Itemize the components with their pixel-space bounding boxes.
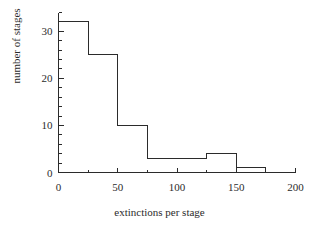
x-tick-label-100: 100	[169, 182, 186, 193]
x-tick-label-200: 200	[287, 182, 304, 193]
histogram-bars-group	[59, 22, 296, 173]
y-tick-label-0: 0	[29, 167, 53, 178]
histogram-outline	[59, 22, 296, 173]
x-tick-label-50: 50	[112, 182, 123, 193]
y-axis-title: number of stages	[10, 0, 22, 106]
axis-spines	[59, 13, 296, 173]
tick-marks-group	[59, 13, 296, 173]
x-axis-title: extinctions per stage	[0, 206, 319, 218]
histogram-figure: 050100150200 0102030 extinctions per sta…	[0, 0, 319, 233]
y-tick-label-30: 30	[29, 26, 53, 37]
x-tick-label-0: 0	[56, 182, 62, 193]
x-tick-label-150: 150	[228, 182, 245, 193]
axes-group	[59, 13, 296, 173]
y-tick-label-10: 10	[29, 120, 53, 131]
y-tick-label-20: 20	[29, 73, 53, 84]
